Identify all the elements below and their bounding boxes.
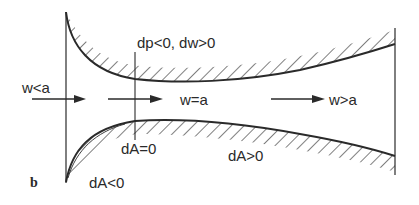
throat-velocity-label: w=a (180, 92, 208, 107)
outlet-velocity-label: w>a (329, 92, 357, 107)
laval-nozzle-diagram: w<a w=a w>a dp<0, dw>0 dA=0 dA<0 dA>0 b (0, 0, 419, 205)
upper-wall-hatch (60, 0, 400, 100)
flow-arrow-outlet (271, 95, 325, 103)
throat-area-label: dA=0 (121, 141, 156, 156)
inlet-velocity-label: w<a (22, 80, 50, 95)
flow-arrow-inlet (32, 95, 86, 103)
diverging-area-label: dA>0 (228, 148, 263, 163)
pressure-velocity-label: dp<0, dw>0 (137, 35, 215, 50)
converging-area-label: dA<0 (89, 175, 124, 190)
panel-label: b (30, 176, 38, 190)
